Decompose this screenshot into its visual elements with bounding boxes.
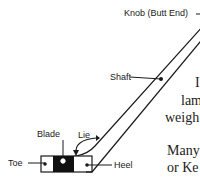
toe-marker (43, 162, 47, 166)
shaft-label: Shaft (110, 73, 131, 82)
body-text-line-5: or Ke (167, 161, 199, 175)
hockey-stick-diagram: Knob (Butt End) Shaft Blade Lie Toe Heel… (0, 0, 200, 190)
body-text-line-4: Many (167, 144, 200, 158)
knob-label: Knob (Butt End) (124, 9, 188, 18)
shaft-marker (159, 77, 163, 81)
heel-label: Heel (114, 161, 133, 170)
blade-marker (61, 159, 65, 163)
blade-box (41, 156, 92, 172)
lie-arrowhead (96, 135, 100, 141)
blade-label: Blade (37, 130, 60, 139)
body-text-line-2: lam (181, 94, 200, 108)
heel-marker (85, 163, 89, 167)
body-text-line-1: I (195, 76, 200, 90)
body-text-line-3: weigh (165, 111, 199, 125)
lie-label: Lie (78, 131, 90, 140)
lie-arc (76, 138, 96, 154)
toe-label: Toe (8, 159, 23, 168)
